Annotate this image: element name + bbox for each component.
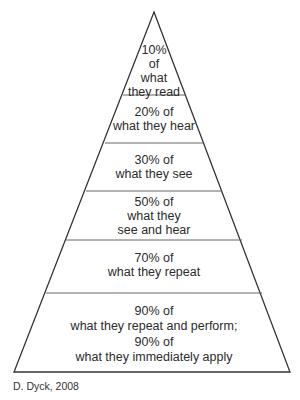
tier-6-text: 90% of what they repeat and perform; 90%… [30, 304, 278, 364]
tier-4-line: 50% of [74, 195, 234, 209]
tier-4-line: what they [74, 209, 234, 223]
tier-5-line: what they repeat [54, 265, 254, 279]
tier-1-line: they read [114, 85, 194, 99]
tier-4-line: see and hear [74, 223, 234, 237]
tier-3-line: what they see [84, 167, 224, 181]
tier-3-text: 30% of what they see [84, 153, 224, 181]
tier-1-line: 10% [114, 43, 194, 57]
tier-2-line: 20% of [94, 105, 214, 119]
tier-1-line: what [114, 71, 194, 85]
tier-6-line: 90% of [30, 335, 278, 350]
tier-2-line: what they hear [94, 119, 214, 133]
tier-5-line: 70% of [54, 251, 254, 265]
tier-5-text: 70% of what they repeat [54, 251, 254, 279]
tier-6-line: what they repeat and perform; [30, 319, 278, 334]
tier-1-line: of [114, 57, 194, 71]
tier-3-line: 30% of [84, 153, 224, 167]
tier-6-line: what they immediately apply [30, 350, 278, 365]
tier-6-line: 90% of [30, 304, 278, 319]
tier-4-text: 50% of what they see and hear [74, 195, 234, 237]
tier-2-text: 20% of what they hear [94, 105, 214, 133]
tier-1-text: 10% of what they read [114, 43, 194, 99]
source-caption: D. Dyck, 2008 [13, 380, 79, 392]
